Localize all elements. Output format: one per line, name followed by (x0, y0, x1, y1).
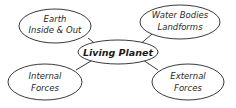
node-internal-forces: Internal Forces (8, 64, 82, 100)
node-earth-label-line2: Inside & Out (29, 25, 82, 35)
node-earth-inside-out: Earth Inside & Out (19, 9, 91, 43)
node-earth-label-line1: Earth (44, 14, 67, 24)
node-water-label-line2: Landforms (157, 22, 203, 32)
concept-map: Earth Inside & Out Water Bodies Landform… (0, 0, 236, 108)
node-external-label-line1: External (170, 71, 206, 81)
node-living-planet: Living Planet (78, 40, 158, 64)
node-center-label: Living Planet (83, 47, 153, 58)
node-internal-label-line1: Internal (29, 71, 63, 81)
node-internal-label-line2: Forces (31, 83, 59, 93)
node-external-label-line2: Forces (174, 83, 202, 93)
node-water-bodies-landforms: Water Bodies Landforms (140, 5, 220, 39)
node-external-forces: External Forces (152, 64, 224, 100)
node-water-label-line1: Water Bodies (152, 10, 209, 20)
